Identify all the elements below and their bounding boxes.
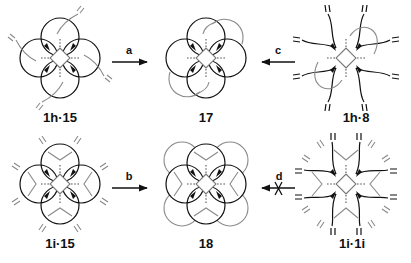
compound-label-1i-15: 1i·15 xyxy=(45,236,75,251)
compound-1h-8 xyxy=(293,5,399,111)
arrow-d-label: d xyxy=(276,170,283,182)
compound-1h-15 xyxy=(8,6,112,110)
compound-1i-1i xyxy=(295,133,397,235)
reaction-scheme: a c b d 1h·15 17 1h·8 1i·15 18 1i·1i xyxy=(0,0,411,263)
compound-label-1h-15: 1h·15 xyxy=(43,110,77,125)
compound-label-18: 18 xyxy=(199,236,213,251)
arrow-c-label: c xyxy=(275,44,281,56)
compound-1i-15 xyxy=(12,136,108,232)
arrow-d: d xyxy=(262,170,295,195)
arrow-a-label: a xyxy=(126,44,133,56)
compound-label-1i-1i: 1i·1i xyxy=(339,236,365,251)
arrow-a: a xyxy=(112,44,147,62)
compound-label-1h-8: 1h·8 xyxy=(343,110,370,125)
arrow-c: c xyxy=(262,44,295,62)
compound-label-17: 17 xyxy=(199,110,213,125)
compound-17 xyxy=(166,18,246,98)
arrow-b: b xyxy=(112,170,147,188)
arrow-b-label: b xyxy=(126,170,133,182)
compound-18 xyxy=(164,142,248,226)
